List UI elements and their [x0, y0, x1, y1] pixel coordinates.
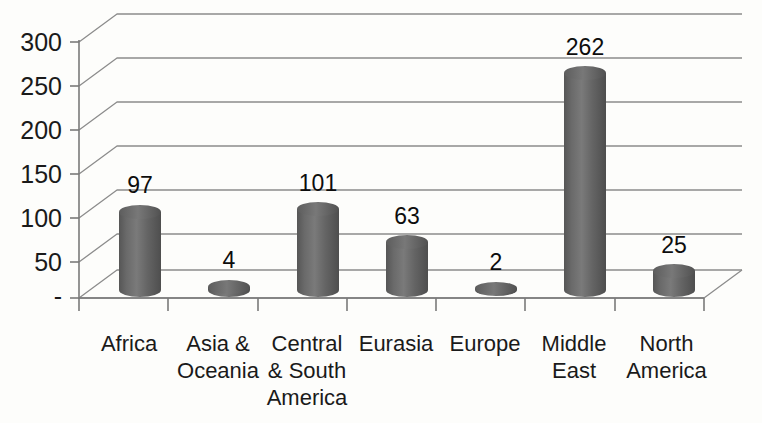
bar-europe — [475, 282, 517, 296]
bar-chart: 300 250 200 150 100 50 - — [0, 0, 762, 423]
bar-africa — [119, 205, 161, 297]
y-tick-label: 150 — [20, 160, 62, 188]
y-tick-label: - — [54, 282, 62, 310]
bar-central-south-america — [297, 202, 339, 297]
x-axis — [79, 298, 704, 311]
value-label-middle-east: 262 — [545, 34, 625, 61]
y-tick-label: 200 — [20, 116, 62, 144]
category-label-middle-east: Middle East — [529, 330, 619, 384]
value-label-africa: 97 — [100, 172, 180, 199]
value-label-central-south-america: 101 — [278, 170, 358, 197]
y-tick-label: 100 — [20, 204, 62, 232]
value-label-asia-oceania: 4 — [189, 247, 269, 274]
bar-middle-east — [564, 66, 606, 297]
category-label-eurasia: Eurasia — [351, 330, 441, 357]
category-label-central-south-america: Central & South America — [262, 330, 352, 411]
y-tick-label: 50 — [34, 248, 62, 276]
bar-asia-oceania — [208, 280, 250, 297]
category-label-europe: Europe — [440, 330, 530, 357]
bar-eurasia — [386, 235, 428, 297]
y-tick-label: 250 — [20, 72, 62, 100]
y-tick-label: 300 — [20, 28, 62, 56]
bar-north-america — [653, 264, 695, 297]
category-label-north-america: North America — [619, 330, 714, 384]
category-label-africa: Africa — [84, 330, 174, 357]
category-label-asia-oceania: Asia & Oceania — [173, 330, 263, 384]
y-axis — [70, 40, 79, 299]
value-label-north-america: 25 — [634, 232, 714, 259]
value-label-europe: 2 — [456, 249, 536, 276]
value-label-eurasia: 63 — [367, 203, 447, 230]
y-tick-labels: 300 250 200 150 100 50 - — [20, 28, 62, 310]
